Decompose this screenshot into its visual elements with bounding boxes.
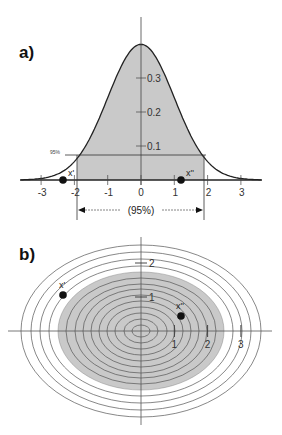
point-x-double-prime bbox=[177, 176, 185, 184]
b-x-tick-label: 2 bbox=[205, 339, 211, 350]
point-x-prime bbox=[59, 176, 67, 184]
x-tick-label: 2 bbox=[206, 187, 212, 198]
panel-a-label: a) bbox=[19, 43, 34, 62]
level-label: 95% bbox=[50, 149, 61, 155]
x-tick-label: 0 bbox=[138, 187, 144, 198]
figure: -3-2-10123 0.10.20.3 a) 95% x' x'' (95%)… bbox=[0, 0, 282, 435]
y-tick-label: 0.3 bbox=[147, 73, 161, 84]
b-x-tick-label: 3 bbox=[238, 339, 244, 350]
x-tick-label: -3 bbox=[38, 187, 47, 198]
x-tick-label: 3 bbox=[239, 187, 245, 198]
point-x-double-prime-label: x'' bbox=[186, 168, 194, 178]
b-y-tick-label: 1 bbox=[149, 292, 155, 303]
b-point-x-double-prime-label: x'' bbox=[176, 301, 184, 311]
b-y-tick-label: 2 bbox=[149, 258, 155, 269]
b-x-tick-label: 1 bbox=[172, 339, 178, 350]
panel-b: 12312 b) x' x'' bbox=[8, 237, 272, 425]
b-point-x-prime-label: x' bbox=[59, 280, 66, 290]
panel-b-label: b) bbox=[19, 245, 35, 264]
b-point-x-prime bbox=[59, 291, 67, 299]
b-point-x-double-prime bbox=[177, 312, 185, 320]
x-tick-label: -1 bbox=[104, 187, 113, 198]
x-tick-label: -2 bbox=[71, 187, 80, 198]
y-tick-label: 0.2 bbox=[147, 107, 161, 118]
point-x-prime-label: x' bbox=[68, 168, 75, 178]
x-tick-label: 1 bbox=[173, 187, 179, 198]
interval-label: (95%) bbox=[128, 205, 155, 216]
panel-a: -3-2-10123 0.10.20.3 a) 95% x' x'' (95%) bbox=[19, 17, 262, 220]
y-tick-label: 0.1 bbox=[147, 141, 161, 152]
